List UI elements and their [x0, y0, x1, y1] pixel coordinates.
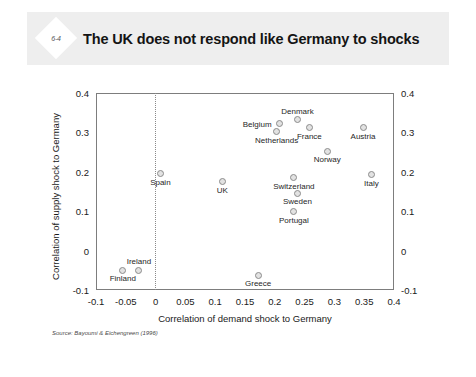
scatter-point [255, 272, 262, 279]
scatter-point-label: Ireland [127, 257, 151, 266]
scatter-point-label: Norway [314, 155, 341, 164]
y-tick-label: 0 [84, 245, 89, 256]
scatter-point [324, 148, 331, 155]
slide: 6-4 The UK does not respond like Germany… [27, 12, 449, 350]
scatter-point-label: Greece [245, 279, 271, 288]
scatter-point-label: Belgium [243, 120, 272, 129]
chart-container: -0.100.10.20.30.4 -0.100.10.20.30.4 -0.1… [27, 65, 449, 350]
x-axis-label: Correlation of demand shock to Germany [96, 313, 394, 324]
y-tick-label: -0.1 [73, 285, 89, 296]
y-tick-label: 0.3 [76, 127, 89, 138]
scatter-point-label: Italy [364, 179, 379, 188]
zero-reference-line [155, 93, 156, 290]
slide-number-label: 6-4 [41, 23, 71, 53]
scatter-point-label: Netherlands [255, 136, 298, 145]
y-tick-label-right: 0.1 [401, 206, 414, 217]
x-tick-label: -0.05 [115, 296, 137, 307]
scatter-point-label: France [297, 132, 322, 141]
source-note: Source: Bayoumi & Eichengreen (1996) [52, 330, 158, 336]
y-tick-label-right: 0.4 [401, 88, 414, 99]
y-tick-label: 0.4 [76, 88, 89, 99]
page-title: The UK does not respond like Germany to … [83, 12, 419, 65]
x-tick-label: 0.2 [268, 296, 281, 307]
scatter-point-label: Spain [150, 178, 170, 187]
x-tick-label: 0.15 [236, 296, 255, 307]
x-tick-label: 0.4 [387, 296, 400, 307]
x-tick-label: 0.35 [355, 296, 374, 307]
scatter-point-label: Sweden [283, 197, 312, 206]
scatter-point-label: UK [217, 186, 228, 195]
scatter-point-label: Finland [110, 274, 136, 283]
x-tick-label: 0.25 [295, 296, 314, 307]
scatter-point [219, 178, 226, 185]
scatter-point [294, 190, 301, 197]
scatter-point-label: Austria [351, 132, 376, 141]
scatter-point-label: Portugal [279, 216, 309, 225]
x-tick-label: 0.05 [176, 296, 195, 307]
slide-header: 6-4 The UK does not respond like Germany… [27, 12, 449, 65]
scatter-point [360, 124, 367, 131]
y-tick-label-right: 0.2 [401, 166, 414, 177]
y-tick-label: 0.2 [76, 166, 89, 177]
x-tick-label: 0.1 [209, 296, 222, 307]
x-tick-label: 0 [153, 296, 158, 307]
y-tick-label-right: -0.1 [401, 285, 417, 296]
y-tick-label: 0.1 [76, 206, 89, 217]
x-tick-label: -0.1 [88, 296, 104, 307]
scatter-point [306, 124, 313, 131]
y-tick-label-right: 0.3 [401, 127, 414, 138]
scatter-point-label: Switzerland [273, 182, 314, 191]
scatter-point-label: Denmark [281, 107, 313, 116]
y-tick-label-right: 0 [401, 245, 406, 256]
x-tick-label: 0.3 [328, 296, 341, 307]
y-axis-label: Correlation of supply shock to Germany [50, 107, 61, 287]
